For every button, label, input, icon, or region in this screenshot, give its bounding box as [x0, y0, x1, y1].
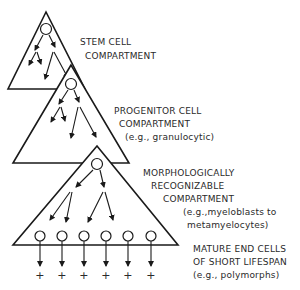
- mature-cell: +: [57, 231, 67, 282]
- svg-text:COMPARTMENT: COMPARTMENT: [85, 51, 156, 61]
- svg-text:RECOGNIZABLE: RECOGNIZABLE: [151, 181, 224, 191]
- death-symbol: +: [79, 269, 88, 282]
- svg-text:MORPHOLOGICALLY: MORPHOLOGICALLY: [143, 168, 235, 178]
- progenitor-label: PROGENITOR CELL COMPARTMENT (e.g., granu…: [114, 106, 214, 142]
- death-symbol: +: [101, 269, 110, 282]
- recognizable-cell-circle: [92, 159, 103, 170]
- svg-text:COMPARTMENT: COMPARTMENT: [119, 119, 190, 129]
- death-symbol: +: [123, 269, 132, 282]
- svg-text:(e.g.,myeloblasts to: (e.g.,myeloblasts to: [183, 207, 277, 217]
- progenitor-triangle: [13, 65, 129, 163]
- progenitor-cell-circle: [66, 79, 77, 90]
- mature-cell: +: [146, 231, 156, 282]
- svg-text:STEM CELL: STEM CELL: [80, 37, 131, 47]
- mature-cell: +: [101, 231, 111, 282]
- svg-text:(e.g., polymorphs): (e.g., polymorphs): [193, 270, 279, 280]
- death-symbol: +: [146, 269, 155, 282]
- svg-text:(e.g., granulocytic): (e.g., granulocytic): [125, 132, 214, 142]
- mature-cell: +: [79, 231, 89, 282]
- svg-text:OF SHORT LIFESPAN: OF SHORT LIFESPAN: [193, 257, 287, 267]
- svg-text:COMPARTMENT: COMPARTMENT: [163, 194, 234, 204]
- mature-cell: +: [35, 231, 45, 282]
- svg-text:PROGENITOR CELL: PROGENITOR CELL: [114, 106, 202, 116]
- svg-text:metamyelocytes): metamyelocytes): [187, 220, 269, 230]
- death-symbol: +: [57, 269, 66, 282]
- stem-cell-label: STEM CELL COMPARTMENT: [80, 37, 156, 61]
- mature-cell: +: [123, 231, 133, 282]
- compartment-diagram: + + + + + + STEM CELL COMPA: [0, 0, 300, 290]
- svg-text:MATURE END CELLS: MATURE END CELLS: [193, 244, 286, 254]
- recognizable-label: MORPHOLOGICALLY RECOGNIZABLE COMPARTMENT…: [143, 168, 277, 230]
- death-symbol: +: [35, 269, 44, 282]
- mature-cells-label: MATURE END CELLS OF SHORT LIFESPAN (e.g.…: [193, 244, 287, 280]
- stem-cell-circle: [41, 24, 52, 35]
